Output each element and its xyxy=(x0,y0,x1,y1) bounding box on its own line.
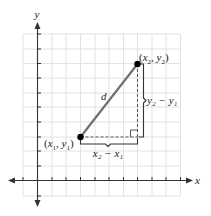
vertical-brace-icon xyxy=(139,64,147,137)
point-1-label: (x1, y1) xyxy=(44,137,74,152)
right-angle-marker-icon xyxy=(131,130,138,137)
y-axis-label: y xyxy=(34,8,40,20)
horizontal-leg-label: x₂ − x₁ xyxy=(92,147,124,159)
point-1 xyxy=(77,134,83,140)
x-axis-left-arrow-icon xyxy=(8,178,15,184)
y-axis-up-arrow-icon xyxy=(35,22,41,29)
distance-formula-diagram: y x (x2, y2) (x1, y1) d y₂ − y₁ x₂ − x₁ xyxy=(0,0,211,216)
vertical-leg-label: y₂ − y₁ xyxy=(146,94,178,106)
distance-label: d xyxy=(101,90,107,102)
axes xyxy=(8,22,193,207)
x-axis-right-arrow-icon xyxy=(186,178,193,184)
y-axis-down-arrow-icon xyxy=(35,200,41,207)
x-axis-label: x xyxy=(194,174,200,186)
